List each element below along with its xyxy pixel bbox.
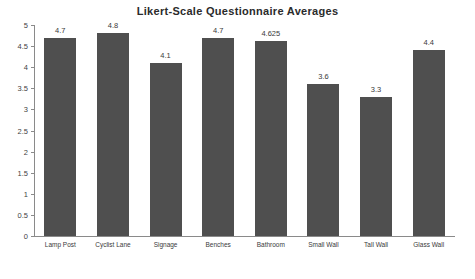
bar: 3.6: [307, 84, 339, 236]
bar: 3.3: [360, 97, 392, 236]
bar-value-label: 4.1: [160, 51, 170, 60]
x-axis-category-label: Benches: [206, 241, 231, 248]
y-axis-tick-mark: [31, 194, 35, 195]
y-axis-tick-mark: [31, 67, 35, 68]
x-axis-category-label: Bathroom: [257, 241, 285, 248]
y-axis-tick-label: 4.5: [2, 42, 28, 51]
y-axis-tick-mark: [31, 131, 35, 132]
y-axis-tick-label: 0.5: [2, 210, 28, 219]
x-axis-category-label: Tall Wall: [364, 241, 388, 248]
bar-value-label: 3.6: [318, 72, 328, 81]
y-axis-tick-mark: [31, 173, 35, 174]
y-axis-tick-label: 2: [2, 147, 28, 156]
y-axis-tick-label: 2.5: [2, 126, 28, 135]
y-axis-tick-label: 1.5: [2, 168, 28, 177]
y-axis-tick-label: 4: [2, 63, 28, 72]
bar: 4.7: [44, 38, 76, 236]
y-axis-tick-mark: [31, 152, 35, 153]
x-axis-category-label: Small Wall: [308, 241, 338, 248]
bar-value-label: 4.4: [423, 38, 433, 47]
bar: 4.1: [150, 63, 182, 236]
x-axis-category-label: Glass Wall: [413, 241, 444, 248]
bar-chart: Likert-Scale Questionnaire Averages 00.5…: [0, 0, 475, 279]
y-axis-tick-mark: [31, 236, 35, 237]
bar-value-label: 4.7: [55, 26, 65, 35]
plot-area: 00.511.522.533.544.55 4.74.84.14.74.6253…: [34, 25, 455, 237]
bar-value-label: 4.625: [261, 29, 280, 38]
y-axis-tick-label: 1: [2, 189, 28, 198]
y-axis-tick-label: 3.5: [2, 84, 28, 93]
y-axis-tick-label: 3: [2, 105, 28, 114]
y-axis-tick-mark: [31, 46, 35, 47]
y-axis-tick-mark: [31, 88, 35, 89]
bar: 4.7: [202, 38, 234, 236]
x-axis-category-label: Signage: [154, 241, 178, 248]
x-axis-category-label: Lamp Post: [45, 241, 76, 248]
y-axis-tick-mark: [31, 109, 35, 110]
x-axis-category-label: Cyclist Lane: [95, 241, 130, 248]
y-axis-tick-mark: [31, 215, 35, 216]
chart-title: Likert-Scale Questionnaire Averages: [0, 5, 475, 17]
bar-value-label: 4.7: [213, 26, 223, 35]
y-axis-tick-label: 5: [2, 21, 28, 30]
bar: 4.8: [97, 33, 129, 236]
bar-value-label: 3.3: [371, 85, 381, 94]
x-axis-line: [34, 236, 455, 237]
y-axis-tick-label: 0: [2, 232, 28, 241]
bar-value-label: 4.8: [108, 21, 118, 30]
bar: 4.4: [413, 50, 445, 236]
bar: 4.625: [255, 41, 287, 236]
y-axis-tick-mark: [31, 25, 35, 26]
